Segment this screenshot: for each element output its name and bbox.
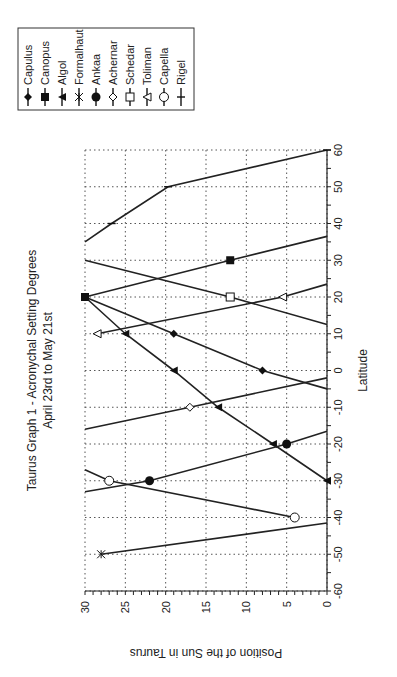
lat-tick-label: -10 [332, 399, 344, 415]
latitude-axis-title: Latitude [356, 349, 370, 392]
sun-tick-label: 5 [281, 601, 293, 607]
square-marker [226, 256, 234, 264]
series-achernar [85, 378, 327, 429]
lat-tick-label: -50 [332, 546, 344, 562]
legend: CapulusCanopusAlgolFormalhautAnkaaAchern… [18, 28, 194, 110]
open-circle-marker [105, 476, 114, 485]
legend-label: Toliman [141, 47, 153, 85]
sun-tick-label: 20 [160, 601, 172, 613]
circle-marker [145, 476, 154, 485]
open-diamond-marker [186, 403, 194, 411]
lat-tick-label: 60 [332, 144, 344, 156]
sun-tick-label: 30 [79, 601, 91, 613]
legend-item-toliman: Toliman [141, 47, 153, 106]
series-line [101, 523, 327, 554]
labels: LatitudePosition of the Sun in TaurusTau… [25, 250, 370, 660]
legend-label: Achernar [107, 40, 119, 85]
lat-tick-label: -20 [332, 436, 344, 452]
legend-label: Ankaa [90, 53, 102, 85]
sun-tick-label: 0 [321, 601, 333, 607]
open-triangle-marker [279, 293, 287, 301]
series-line [85, 470, 295, 518]
legend-label: Formalhaut [73, 29, 85, 85]
open-circle-marker [290, 513, 299, 522]
series-capella [85, 470, 299, 522]
sun-tick-label: 10 [240, 601, 252, 613]
sun-tick-label: 15 [200, 601, 212, 613]
circle-marker [282, 440, 291, 449]
legend-label: Canopus [39, 40, 51, 85]
lat-tick-label: 50 [332, 181, 344, 193]
lat-tick-label: 0 [332, 367, 344, 373]
series-line [85, 260, 327, 324]
open-square-marker [126, 93, 134, 101]
chart: -60-50-40-30-20-100102030405060051015202… [0, 0, 397, 677]
sun-tick-label: 25 [119, 601, 131, 613]
grid [85, 150, 327, 591]
legend-label: Capulus [22, 44, 34, 85]
legend-label: Algol [56, 61, 68, 85]
lat-tick-label: 40 [332, 217, 344, 229]
lat-tick-label: 10 [332, 328, 344, 340]
lat-tick-label: -30 [332, 473, 344, 489]
legend-item-capella: Capella [158, 47, 170, 106]
diamond-marker [258, 367, 266, 375]
circle-marker [92, 93, 101, 102]
open-square-marker [226, 293, 234, 301]
lat-tick-label: 30 [332, 254, 344, 266]
chart-title: Taurus Graph 1 - Acronychal Setting Degr… [25, 250, 39, 491]
open-triangle-marker [93, 330, 101, 338]
legend-item-schedar: Schedar [124, 44, 136, 106]
series-schedar [85, 260, 327, 324]
series-rigel [85, 150, 331, 242]
axes: -60-50-40-30-20-100102030405060051015202… [79, 144, 344, 613]
lat-tick-label: 20 [332, 291, 344, 303]
lat-tick-label: -40 [332, 510, 344, 526]
sun-axis-title: Position of the Sun in Taurus [130, 646, 283, 660]
series-line [97, 284, 327, 334]
lat-tick-label: -60 [332, 583, 344, 599]
chart-subtitle: April 23rd to May 21st [41, 311, 55, 428]
series-line [85, 378, 327, 429]
series-formalhaut [97, 523, 327, 558]
square-marker [41, 93, 49, 101]
diamond-marker [170, 330, 178, 338]
legend-item-ankaa: Ankaa [90, 53, 102, 106]
legend-label: Rigel [175, 60, 187, 85]
legend-label: Capella [158, 47, 170, 85]
series-capulus [81, 293, 327, 389]
legend-label: Schedar [124, 44, 136, 85]
open-circle-marker [160, 93, 169, 102]
